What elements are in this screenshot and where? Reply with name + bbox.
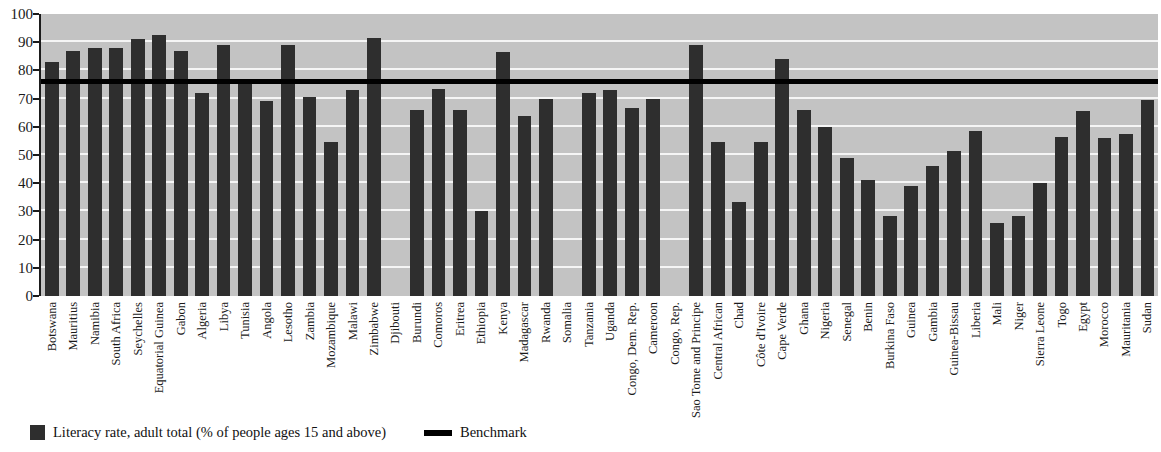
bar[interactable] [260, 101, 274, 296]
bar-slot[interactable] [105, 14, 126, 296]
bar-slot[interactable] [1137, 14, 1158, 296]
bar[interactable] [775, 59, 789, 296]
bar-slot[interactable] [814, 14, 835, 296]
bar[interactable] [367, 38, 381, 296]
bar[interactable] [539, 99, 553, 296]
bar[interactable] [496, 52, 510, 296]
bar[interactable] [646, 99, 660, 296]
bar-slot[interactable] [879, 14, 900, 296]
bar[interactable] [66, 51, 80, 296]
bar-slot[interactable] [857, 14, 878, 296]
bar[interactable] [453, 110, 467, 296]
bar[interactable] [625, 108, 639, 296]
bar-slot[interactable] [363, 14, 384, 296]
bar[interactable] [475, 211, 489, 296]
bar-slot[interactable] [385, 14, 406, 296]
bar-slot[interactable] [127, 14, 148, 296]
x-tick-label: Gabon [174, 302, 187, 335]
bar-slot[interactable] [836, 14, 857, 296]
bar[interactable] [518, 116, 532, 296]
bar-slot[interactable] [1008, 14, 1029, 296]
bar-slot[interactable] [406, 14, 427, 296]
bar-slot[interactable] [664, 14, 685, 296]
bar[interactable] [904, 186, 918, 296]
bar-slot[interactable] [729, 14, 750, 296]
bar-slot[interactable] [449, 14, 470, 296]
bar-slot[interactable] [1094, 14, 1115, 296]
bar[interactable] [969, 131, 983, 296]
bar-slot[interactable] [256, 14, 277, 296]
bar[interactable] [1055, 137, 1069, 296]
bar-slot[interactable] [600, 14, 621, 296]
bar-slot[interactable] [1029, 14, 1050, 296]
bar[interactable] [947, 151, 961, 296]
bar-slot[interactable] [492, 14, 513, 296]
bar-slot[interactable] [686, 14, 707, 296]
bar-slot[interactable] [514, 14, 535, 296]
y-tick-mark [33, 41, 39, 43]
bar[interactable] [818, 127, 832, 296]
bar-slot[interactable] [578, 14, 599, 296]
bar-slot[interactable] [1115, 14, 1136, 296]
bar-slot[interactable] [1051, 14, 1072, 296]
bar-slot[interactable] [320, 14, 341, 296]
bar[interactable] [1076, 111, 1090, 296]
bar-slot[interactable] [535, 14, 556, 296]
bar-slot[interactable] [771, 14, 792, 296]
bar-slot[interactable] [1072, 14, 1093, 296]
bar[interactable] [303, 97, 317, 296]
bar-slot[interactable] [41, 14, 62, 296]
bar[interactable] [195, 93, 209, 296]
bar[interactable] [732, 202, 746, 296]
bar[interactable] [109, 48, 123, 296]
bar-slot[interactable] [471, 14, 492, 296]
bar-slot[interactable] [621, 14, 642, 296]
bar-slot[interactable] [84, 14, 105, 296]
bar[interactable] [926, 166, 940, 296]
bar-slot[interactable] [965, 14, 986, 296]
bar-slot[interactable] [986, 14, 1007, 296]
bar-slot[interactable] [234, 14, 255, 296]
bar[interactable] [990, 223, 1004, 296]
bar-slot[interactable] [62, 14, 83, 296]
bar[interactable] [861, 180, 875, 296]
bar[interactable] [174, 51, 188, 296]
bar[interactable] [840, 158, 854, 296]
bar-slot[interactable] [643, 14, 664, 296]
bar-slot[interactable] [299, 14, 320, 296]
bar[interactable] [711, 142, 725, 296]
bar-slot[interactable] [277, 14, 298, 296]
bar-slot[interactable] [793, 14, 814, 296]
bar[interactable] [754, 142, 768, 296]
bar[interactable] [88, 48, 102, 296]
bar[interactable] [1033, 183, 1047, 296]
bar-slot[interactable] [428, 14, 449, 296]
bar[interactable] [410, 110, 424, 296]
bar[interactable] [1098, 138, 1112, 296]
bar[interactable] [1119, 134, 1133, 296]
bar-slot[interactable] [707, 14, 728, 296]
bar[interactable] [238, 79, 252, 296]
bar[interactable] [1012, 216, 1026, 296]
x-tick-label: Guinea-Bissau [948, 302, 961, 376]
bar-slot[interactable] [170, 14, 191, 296]
bar-slot[interactable] [750, 14, 771, 296]
bar[interactable] [432, 89, 446, 296]
bar[interactable] [603, 90, 617, 296]
bar[interactable] [1141, 100, 1155, 296]
bar[interactable] [346, 90, 360, 296]
bar-slot[interactable] [191, 14, 212, 296]
bar[interactable] [324, 142, 338, 296]
bar[interactable] [45, 62, 59, 296]
bar-slot[interactable] [342, 14, 363, 296]
bar-slot[interactable] [557, 14, 578, 296]
bar-slot[interactable] [943, 14, 964, 296]
bar[interactable] [883, 216, 897, 296]
bar[interactable] [582, 93, 596, 296]
bar-slot[interactable] [922, 14, 943, 296]
bar-slot[interactable] [148, 14, 169, 296]
bar[interactable] [797, 110, 811, 296]
bar-slot[interactable] [900, 14, 921, 296]
bar-slot[interactable] [213, 14, 234, 296]
bar[interactable] [152, 35, 166, 296]
